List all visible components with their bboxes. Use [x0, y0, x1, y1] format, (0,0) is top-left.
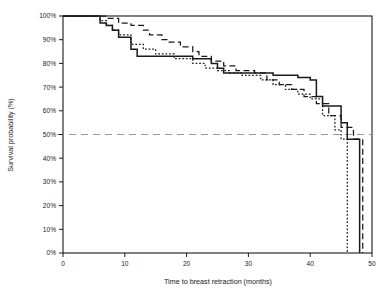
y-tick-label: 0% [46, 249, 56, 256]
x-tick-label: 20 [183, 260, 191, 267]
y-axis-tick-group: 0%10%20%30%40%50%60%70%80%90%100% [39, 12, 63, 256]
y-tick-label: 70% [43, 84, 56, 91]
y-tick-label: 40% [43, 155, 56, 162]
y-tick-label: 10% [43, 226, 56, 233]
y-tick-label: 90% [43, 36, 56, 43]
x-axis-title: Time to breast retraction (months) [164, 277, 272, 286]
x-axis-tick-group: 01020304050 [61, 253, 376, 267]
survival-plot-svg: 0%10%20%30%40%50%60%70%80%90%100% 010203… [0, 0, 392, 292]
x-tick-label: 30 [245, 260, 253, 267]
y-tick-label: 80% [43, 60, 56, 67]
y-tick-label: 50% [43, 131, 56, 138]
y-tick-label: 100% [39, 12, 56, 19]
x-tick-label: 40 [307, 260, 315, 267]
x-tick-label: 0 [61, 260, 65, 267]
x-tick-label: 10 [121, 260, 129, 267]
survival-chart: 0%10%20%30%40%50%60%70%80%90%100% 010203… [0, 0, 392, 292]
x-tick-label: 50 [368, 260, 376, 267]
y-tick-label: 60% [43, 107, 56, 114]
y-tick-label: 30% [43, 178, 56, 185]
y-tick-label: 20% [43, 202, 56, 209]
y-axis-title: Survival probability (%) [6, 98, 15, 172]
